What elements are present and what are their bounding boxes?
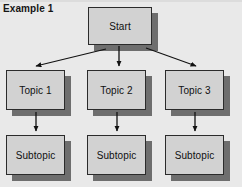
node-subtopic-2-label: Subtopic — [97, 150, 137, 161]
node-subtopic-3[interactable]: Subtopic — [165, 135, 224, 175]
node-subtopic-1[interactable]: Subtopic — [6, 135, 65, 175]
node-topic-2[interactable]: Topic 2 — [87, 70, 146, 110]
node-topic-1-label: Topic 1 — [19, 85, 51, 96]
node-topic-2-label: Topic 2 — [100, 85, 132, 96]
node-topic-3[interactable]: Topic 3 — [165, 70, 224, 110]
edge-start-to-topic1 — [36, 49, 106, 66]
node-topic-1[interactable]: Topic 1 — [6, 70, 65, 110]
page-title: Example 1 — [3, 3, 53, 14]
node-subtopic-3-label: Subtopic — [175, 150, 215, 161]
node-subtopic-1-label: Subtopic — [16, 150, 56, 161]
flowchart-diagram: Example 1 Start Topic 1 Topic 2 — [0, 0, 242, 187]
node-subtopic-2[interactable]: Subtopic — [87, 135, 146, 175]
node-topic-3-label: Topic 3 — [178, 85, 210, 96]
scan-artifact-top — [0, 0, 242, 2]
node-start-label: Start — [109, 21, 131, 32]
node-start[interactable]: Start — [88, 7, 152, 45]
